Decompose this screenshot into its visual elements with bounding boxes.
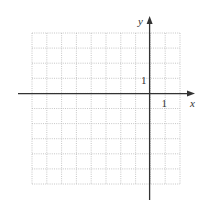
y-axis-label: y [137, 15, 143, 27]
x-axis [18, 91, 195, 97]
x-axis-label: x [189, 97, 195, 109]
x-tick-label: 1 [162, 97, 168, 109]
y-axis [147, 16, 153, 200]
grid [32, 33, 180, 184]
x-axis-arrow-icon [187, 91, 195, 97]
coordinate-plane: x y 1 1 [0, 0, 207, 209]
y-axis-arrow-icon [147, 16, 153, 24]
y-tick-label: 1 [141, 74, 147, 86]
